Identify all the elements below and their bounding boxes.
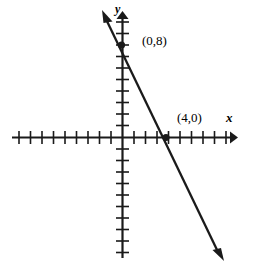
x-axis-arrowhead <box>230 132 238 144</box>
plotted-line-arrowhead-end <box>213 248 225 261</box>
coordinate-plane-svg <box>0 0 256 263</box>
x-axis-label: x <box>226 110 233 126</box>
plotted-line-arrowhead-start <box>102 10 113 23</box>
y-intercept-label: (0,8) <box>142 33 167 49</box>
x-intercept-label: (4,0) <box>177 110 202 126</box>
graph-canvas: (0,8) (4,0) x y <box>0 0 256 263</box>
point-marker-y-intercept <box>118 41 125 48</box>
y-axis-label: y <box>115 2 120 17</box>
point-marker-x-intercept <box>162 134 169 141</box>
